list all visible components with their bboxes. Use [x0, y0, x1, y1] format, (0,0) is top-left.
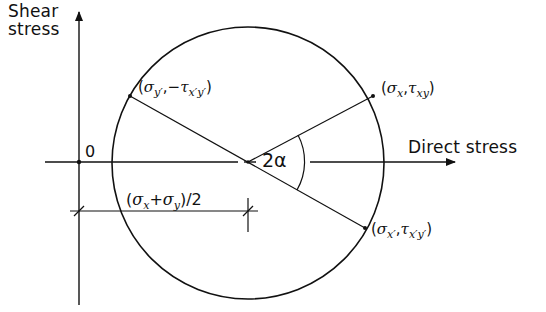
subscript: xy: [416, 87, 428, 100]
comma-minus: ,−: [163, 78, 180, 96]
point-sigma-x-prime: [363, 226, 367, 230]
paren-close: ): [206, 78, 212, 96]
sigma-symbol: σ: [144, 78, 154, 96]
point-sigma-y-prime: [128, 94, 132, 98]
direct-stress-label: Direct stress: [408, 139, 517, 156]
point-label-sigma-x-tau-xy: (σx,τxy): [381, 81, 435, 99]
sigma-symbol: σ: [377, 220, 387, 238]
shear-stress-label-line2: stress: [8, 21, 60, 38]
plus-sign: +: [149, 190, 162, 209]
circle-center: [246, 160, 250, 164]
origin-point: [77, 160, 81, 164]
subscript: x′y′: [188, 86, 205, 99]
subscript: y′: [154, 86, 163, 99]
paren-close-half: )/2: [180, 190, 202, 209]
point-sigma-x-tau-xy: [371, 94, 375, 98]
subscript: x′: [387, 228, 396, 241]
sigma-symbol: σ: [387, 79, 397, 97]
paren-close: ): [429, 79, 435, 97]
angle-label: 2α: [262, 151, 287, 170]
sigma-symbol: σ: [132, 190, 143, 209]
subscript: x′y′: [409, 228, 426, 241]
tau-symbol: τ: [401, 220, 409, 238]
shear-stress-label-line1: Shear: [8, 3, 58, 20]
sigma-symbol: σ: [163, 190, 174, 209]
point-label-sigma-x-prime: (σx′,τx′y′): [371, 222, 432, 240]
center-dimension-label: (σx+σy)/2: [126, 192, 202, 211]
origin-label: 0: [85, 144, 95, 160]
point-label-sigma-y-prime: (σy′,−τx′y′): [138, 80, 212, 98]
paren-close: ): [426, 220, 432, 238]
angle-arc: [297, 135, 305, 190]
